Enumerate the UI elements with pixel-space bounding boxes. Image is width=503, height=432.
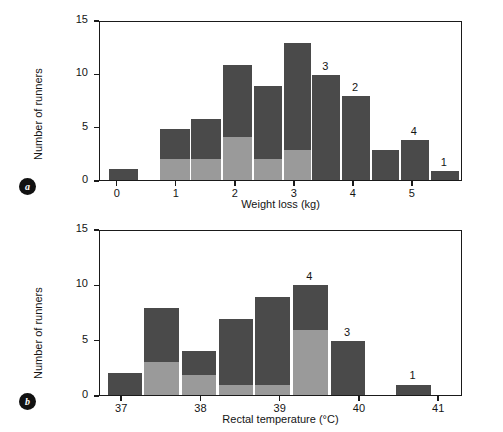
bar-segment-upper — [182, 351, 216, 374]
y-tick-mark — [94, 395, 99, 397]
bar-segment-lower — [191, 159, 221, 180]
figure-histograms: a Number of runners 051015 012345 3241 W… — [0, 0, 503, 432]
bar-segment-upper — [144, 308, 179, 362]
x-tick-mark — [279, 396, 281, 401]
bar-segment-upper — [223, 65, 253, 137]
y-axis-title-a: Number of runners — [32, 68, 44, 160]
bar-value-annotation: 3 — [332, 326, 362, 338]
bar-segment-upper — [331, 341, 366, 395]
bar-segment-upper — [108, 373, 142, 395]
x-tick-mark — [293, 181, 295, 186]
bar-value-annotation: 1 — [397, 369, 427, 381]
x-tick-mark — [120, 396, 122, 401]
plot-area-a — [99, 21, 462, 181]
histogram-bar — [255, 297, 290, 395]
bar-segment-lower — [223, 137, 253, 180]
bar-value-annotation: 4 — [399, 125, 429, 137]
bar-segment-lower — [293, 330, 329, 395]
histogram-bar — [219, 319, 253, 395]
y-tick-label: 0 — [53, 173, 88, 185]
bars-container-a — [100, 22, 461, 180]
bar-segment-upper — [284, 43, 312, 150]
bar-segment-lower — [144, 362, 179, 395]
bar-value-annotation: 2 — [340, 81, 370, 93]
bar-segment-upper — [342, 96, 370, 180]
x-tick-mark — [234, 181, 236, 186]
panel-a: a Number of runners 051015 012345 3241 W… — [0, 0, 503, 216]
y-tick-mark — [94, 229, 99, 231]
histogram-bar — [109, 169, 139, 180]
bar-value-annotation: 3 — [310, 60, 340, 72]
bar-value-annotation: 1 — [429, 156, 459, 168]
x-axis-title-a: Weight loss (kg) — [99, 198, 462, 210]
y-tick-mark — [94, 127, 99, 129]
y-tick-mark — [94, 74, 99, 76]
x-tick-mark — [116, 181, 118, 186]
histogram-bar — [144, 308, 179, 395]
bar-segment-upper — [254, 86, 282, 159]
histogram-bar — [312, 75, 340, 180]
bar-segment-upper — [431, 171, 459, 180]
bar-value-annotation: 4 — [294, 270, 324, 282]
x-tick-mark — [175, 181, 177, 186]
x-tick-mark — [200, 396, 202, 401]
histogram-bar — [254, 86, 282, 180]
histogram-bar — [396, 385, 432, 396]
y-tick-mark — [94, 285, 99, 287]
histogram-bar — [284, 43, 312, 180]
histogram-bar — [182, 351, 216, 395]
panel-label-a: a — [19, 178, 36, 195]
bar-segment-upper — [293, 285, 329, 329]
bar-segment-lower — [219, 385, 253, 395]
bar-segment-lower — [255, 385, 290, 396]
y-tick-label: 5 — [53, 120, 88, 132]
y-tick-label: 5 — [53, 333, 88, 345]
x-tick-mark — [352, 181, 354, 186]
histogram-bar — [223, 65, 253, 180]
y-tick-label: 10 — [53, 66, 88, 78]
y-tick-label: 15 — [53, 13, 88, 25]
bar-segment-upper — [109, 169, 139, 180]
histogram-bar — [372, 150, 400, 180]
panel-b: b Number of runners 051015 3738394041 43… — [0, 216, 503, 432]
bar-segment-upper — [160, 129, 190, 158]
x-tick-mark — [358, 396, 360, 401]
histogram-bar — [431, 171, 459, 180]
bar-segment-lower — [254, 159, 282, 180]
bar-segment-upper — [219, 319, 253, 385]
y-tick-label: 15 — [53, 222, 88, 234]
bar-segment-upper — [372, 150, 400, 180]
y-tick-mark — [94, 340, 99, 342]
histogram-bar — [293, 285, 329, 395]
histogram-bar — [401, 140, 429, 180]
histogram-bar — [160, 129, 190, 180]
histogram-bar — [191, 119, 221, 180]
histogram-bar — [342, 96, 370, 180]
x-tick-mark — [411, 181, 413, 186]
histogram-bar — [108, 373, 142, 395]
y-tick-label: 10 — [53, 277, 88, 289]
x-axis-title-b: Rectal temperature (°C) — [99, 413, 462, 425]
y-tick-mark — [94, 180, 99, 182]
y-tick-mark — [94, 20, 99, 22]
bar-segment-upper — [312, 75, 340, 180]
bar-segment-upper — [191, 119, 221, 159]
bar-segment-upper — [396, 385, 432, 396]
bar-segment-lower — [284, 150, 312, 180]
panel-label-b: b — [19, 393, 36, 410]
x-tick-mark — [437, 396, 439, 401]
bar-segment-upper — [401, 140, 429, 180]
bar-segment-lower — [182, 375, 216, 395]
y-tick-label: 0 — [53, 388, 88, 400]
bar-segment-lower — [160, 159, 190, 180]
bar-segment-upper — [255, 297, 290, 385]
histogram-bar — [331, 341, 366, 395]
y-axis-title-b: Number of runners — [32, 287, 44, 379]
